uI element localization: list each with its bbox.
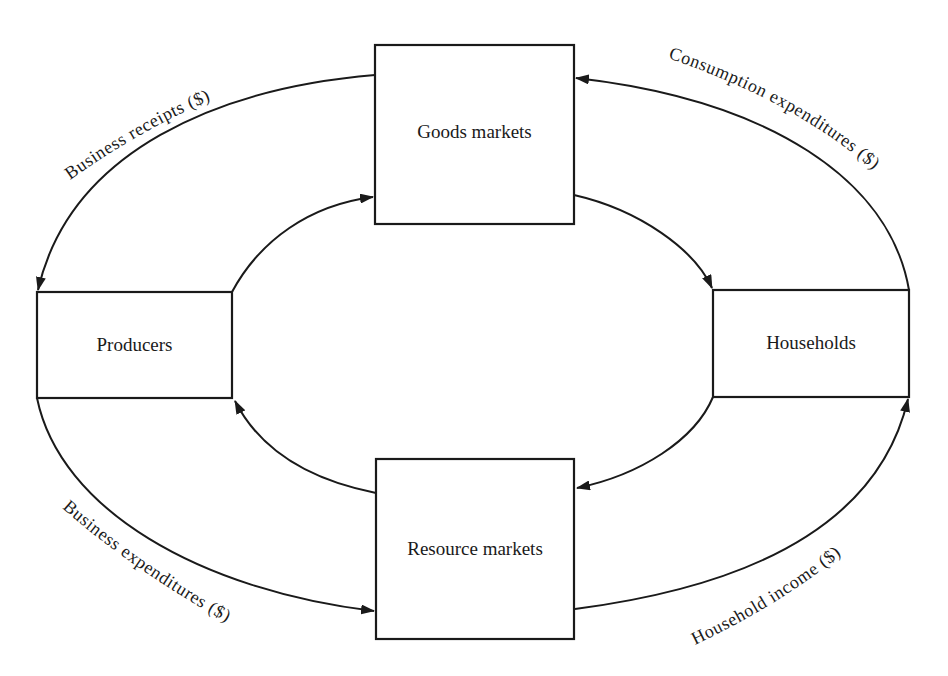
households-label: Households [766,332,856,353]
flow-business-receipts-arrow [38,75,375,290]
resource-markets-label: Resource markets [407,538,543,559]
flow-producers-to-goods-arrow [232,197,373,292]
flow-resource-to-producers-arrow [235,401,376,493]
circular-flow-diagram: Goods markets Producers Households Resou… [0,0,948,676]
node-households: Households [713,290,909,397]
flow-goods-to-households-arrow [574,195,712,288]
business-expenditures-label: Business expenditures ($) [59,496,234,627]
producers-label: Producers [97,334,173,355]
flow-consumption-expenditures-arrow [576,78,909,290]
flow-households-to-resource-arrow [577,397,713,488]
node-producers: Producers [37,292,232,398]
flow-business-expenditures-arrow [37,398,374,611]
flow-household-income-arrow [575,399,908,609]
node-resource-markets: Resource markets [376,459,574,639]
business-receipts-label: Business receipts ($) [61,85,213,183]
node-goods-markets: Goods markets [375,45,574,224]
consumption-expenditures-label: Consumption expenditures ($) [667,43,885,174]
goods-markets-label: Goods markets [417,121,532,142]
